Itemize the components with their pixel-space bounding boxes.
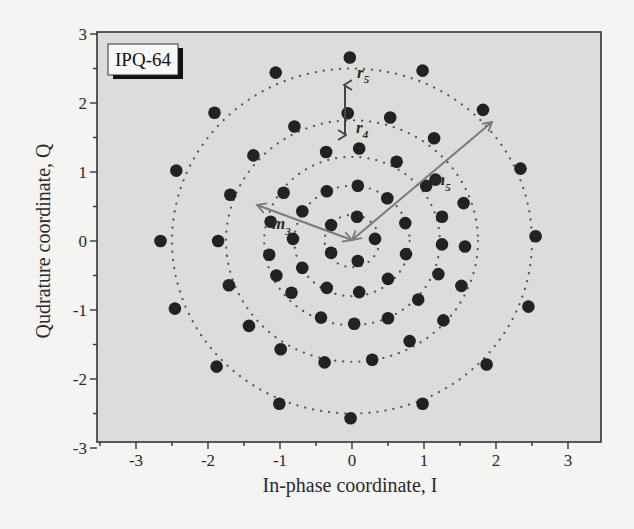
y-tick-label: -3 bbox=[73, 439, 87, 458]
constellation-point bbox=[320, 146, 333, 159]
legend: IPQ-64 bbox=[108, 44, 183, 79]
constellation-point bbox=[436, 211, 449, 224]
constellation-point bbox=[403, 335, 416, 348]
constellation-point bbox=[477, 104, 490, 117]
x-tick-label: -2 bbox=[201, 451, 215, 470]
y-tick-label: -1 bbox=[73, 301, 87, 320]
constellation-point bbox=[273, 398, 286, 411]
plot-area bbox=[97, 32, 601, 442]
constellation-point bbox=[247, 149, 260, 162]
constellation-point bbox=[288, 120, 301, 133]
constellation-point bbox=[369, 233, 382, 246]
x-tick-label: 0 bbox=[348, 451, 357, 470]
constellation-point bbox=[399, 217, 412, 230]
constellation-point bbox=[285, 287, 298, 300]
constellation-point bbox=[243, 320, 256, 333]
constellation-point bbox=[432, 268, 445, 281]
constellation-point bbox=[455, 280, 468, 293]
constellation-point bbox=[352, 180, 365, 193]
constellation-point bbox=[416, 64, 429, 77]
constellation-chart: r5 r4 m3 m5 IPQ-64 -3-2-10123 -3-2-10123… bbox=[0, 0, 634, 529]
constellation-point bbox=[170, 164, 183, 177]
constellation-point bbox=[315, 311, 328, 324]
constellation-point bbox=[381, 192, 394, 205]
legend-label: IPQ-64 bbox=[115, 49, 171, 70]
x-tick-label: -1 bbox=[273, 451, 287, 470]
x-axis-title: In-phase coordinate, I bbox=[263, 474, 438, 497]
constellation-point bbox=[277, 186, 290, 199]
constellation-point bbox=[437, 314, 450, 327]
y-axis-title: Qudrature coordinate, Q bbox=[32, 143, 54, 338]
constellation-point bbox=[457, 197, 470, 210]
constellation-point bbox=[416, 398, 429, 411]
constellation-point bbox=[344, 412, 357, 425]
constellation-point bbox=[382, 273, 395, 286]
constellation-point bbox=[353, 286, 366, 299]
constellation-point bbox=[412, 293, 425, 306]
constellation-point bbox=[400, 248, 413, 261]
constellation-point bbox=[169, 302, 182, 315]
constellation-point bbox=[341, 107, 354, 120]
constellation-point bbox=[296, 262, 309, 275]
constellation-point bbox=[223, 279, 236, 292]
constellation-point bbox=[325, 219, 338, 232]
y-tick-label: -2 bbox=[73, 370, 87, 389]
constellation-point bbox=[428, 132, 441, 145]
x-tick-label: 2 bbox=[492, 451, 501, 470]
constellation-point bbox=[382, 312, 395, 325]
constellation-point bbox=[384, 111, 397, 124]
constellation-point bbox=[480, 358, 493, 371]
constellation-point bbox=[154, 235, 167, 248]
y-axis-ticks: -3-2-10123 bbox=[73, 25, 97, 458]
constellation-point bbox=[321, 282, 334, 295]
constellation-point bbox=[224, 189, 237, 202]
constellation-point bbox=[390, 155, 403, 168]
constellation-point bbox=[529, 230, 542, 243]
constellation-point bbox=[353, 142, 366, 155]
constellation-point bbox=[208, 106, 221, 119]
constellation-point bbox=[212, 235, 225, 248]
constellation-point bbox=[325, 246, 338, 259]
constellation-point bbox=[351, 211, 364, 224]
constellation-point bbox=[321, 185, 334, 198]
constellation-point bbox=[522, 300, 535, 313]
x-axis-ticks: -3-2-10123 bbox=[100, 442, 572, 470]
constellation-point bbox=[514, 162, 527, 175]
y-tick-label: 3 bbox=[79, 25, 88, 44]
constellation-point bbox=[274, 343, 287, 356]
x-tick-label: -3 bbox=[129, 451, 143, 470]
constellation-point bbox=[270, 269, 283, 282]
constellation-point bbox=[436, 238, 449, 251]
constellation-point bbox=[210, 360, 223, 373]
constellation-point bbox=[366, 353, 379, 366]
x-tick-label: 3 bbox=[564, 451, 573, 470]
constellation-point bbox=[344, 51, 357, 64]
x-tick-label: 1 bbox=[420, 451, 429, 470]
y-tick-label: 1 bbox=[79, 163, 88, 182]
constellation-point bbox=[459, 240, 472, 253]
y-tick-label: 0 bbox=[79, 232, 88, 251]
constellation-point bbox=[348, 318, 361, 331]
constellation-point bbox=[318, 356, 331, 369]
constellation-point bbox=[352, 255, 365, 268]
y-tick-label: 2 bbox=[79, 94, 88, 113]
constellation-point bbox=[263, 249, 276, 262]
constellation-point bbox=[269, 66, 282, 79]
constellation-point bbox=[296, 205, 309, 218]
